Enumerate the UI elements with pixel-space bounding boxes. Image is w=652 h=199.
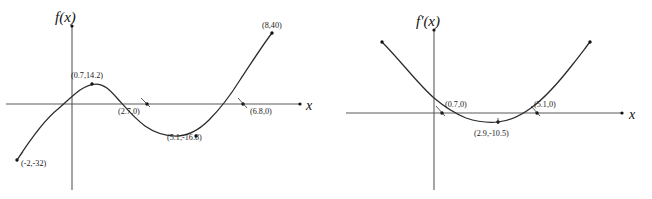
- y-axis-left: [70, 24, 73, 190]
- label-point-0-7-14-2: (0.7,14.2): [71, 71, 103, 80]
- label-point-5-1-0: (5.1,0): [534, 100, 556, 109]
- axis-label-x-left: x: [305, 98, 313, 113]
- x-axis-left: [6, 102, 302, 105]
- chart-f-of-x-svg: (0.7,14.2) (2.7,0) (5.1,-16.8) (6.8,0) (…: [0, 0, 326, 199]
- curve-f-prime: [382, 42, 590, 122]
- point-marker: [380, 40, 383, 43]
- label-point-2-9--10-5: (2.9,-10.5): [474, 129, 509, 138]
- axis-label-x-right: x: [628, 107, 636, 122]
- chart-f-of-x: (0.7,14.2) (2.7,0) (5.1,-16.8) (6.8,0) (…: [0, 0, 326, 199]
- axis-label-f-of-x: f(x): [55, 9, 76, 26]
- point-marker: [588, 40, 591, 43]
- x-axis-right: [346, 111, 624, 114]
- data-points-right: [380, 40, 591, 123]
- point-marker: [90, 82, 93, 85]
- axis-label-f-prime-of-x: f'(x): [416, 13, 440, 30]
- point-marker: [270, 31, 273, 34]
- y-axis-right: [432, 28, 435, 190]
- chart-f-prime-of-x: (0.7,0) (5.1,0) (2.9,-10.5) f'(x) x: [326, 0, 652, 199]
- label-point--2--32: (-2,-32): [21, 159, 47, 168]
- data-points-left: [15, 31, 273, 161]
- label-point-5-1--16-8: (5.1,-16.8): [167, 133, 202, 142]
- curve-f: [17, 33, 272, 160]
- label-point-6-8-0: (6.8,0): [250, 107, 272, 116]
- label-point-2-7-0: (2.7,0): [118, 107, 140, 116]
- label-point-0-7-0: (0.7,0): [445, 100, 467, 109]
- label-point-8-40: (8,40): [262, 21, 282, 30]
- chart-f-prime-svg: (0.7,0) (5.1,0) (2.9,-10.5) f'(x) x: [326, 0, 652, 199]
- figure-container: (0.7,14.2) (2.7,0) (5.1,-16.8) (6.8,0) (…: [0, 0, 652, 199]
